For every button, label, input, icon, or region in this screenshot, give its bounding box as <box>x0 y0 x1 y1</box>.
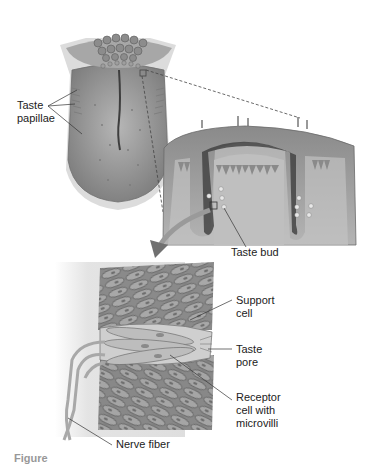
tongue-illustration <box>60 34 176 210</box>
label-nerve-fiber: Nerve fiber <box>116 438 170 451</box>
label-taste-bud: Taste bud <box>231 246 279 259</box>
label-support-cell: Support cell <box>236 294 275 320</box>
figure-caption-partial: Figure <box>14 452 48 464</box>
label-taste-pore: Taste pore <box>236 343 262 369</box>
taste-bud-detail <box>55 262 214 440</box>
label-taste-papillae: Taste papillae <box>17 99 55 125</box>
label-receptor-cell: Receptor cell with microvilli <box>236 391 281 430</box>
papilla-cross-section <box>163 116 356 245</box>
